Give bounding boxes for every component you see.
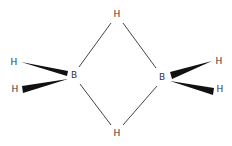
wedge-bond-left-lower (22, 79, 68, 93)
bond-left-b-top-h (79, 23, 111, 67)
wedge-bond-left-upper (21, 62, 68, 76)
atom-h-left-lower: H (12, 84, 19, 94)
atom-h-left-upper: H (11, 57, 18, 67)
atom-boron-left: B (71, 70, 77, 80)
atom-h-right-upper: H (216, 56, 223, 66)
atom-bridge-h-top: H (114, 9, 121, 19)
bond-left-b-bottom-h (80, 84, 111, 125)
atom-boron-right: B (159, 72, 165, 82)
atom-bridge-h-bottom: H (114, 128, 121, 138)
wedge-bond-right-upper (170, 61, 212, 79)
diborane-structure: H H B B H H H H (0, 0, 232, 146)
bond-top-h-right-b (123, 23, 156, 68)
bond-bottom-h-right-b (123, 86, 157, 125)
atom-h-right-lower: H (217, 84, 224, 94)
wedge-bond-right-lower (170, 81, 214, 95)
